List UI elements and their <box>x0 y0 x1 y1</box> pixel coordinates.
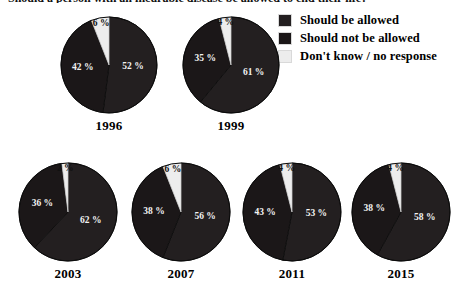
legend-item-dont-know: Don't know / no response <box>278 47 463 65</box>
pie-chart-1999: 61 %35 %4 %1999 <box>182 16 280 134</box>
pie-year-label-1996: 1996 <box>60 118 158 134</box>
pie-year-label-1999: 1999 <box>182 118 280 134</box>
pie-value-label-2015-0: 58 % <box>414 213 435 223</box>
pie-value-label-1999-1: 35 % <box>195 54 216 64</box>
pie-value-label-2003-2: 2 % <box>57 164 74 174</box>
pie-disc-2011: 53 %43 %4 % <box>242 162 342 262</box>
pie-year-label-2003: 2003 <box>18 266 118 282</box>
legend-swatch-not-allowed <box>278 32 292 45</box>
pie-value-label-1996-1: 42 % <box>72 64 93 74</box>
legend-label-allowed: Should be allowed <box>300 14 399 27</box>
pie-value-label-2007-1: 38 % <box>143 207 164 217</box>
pie-value-label-1996-0: 52 % <box>122 62 143 72</box>
pie-chart-2011: 53 %43 %4 %2011 <box>242 162 342 282</box>
pie-disc-2015: 58 %38 %4 % <box>351 162 451 262</box>
pie-disc-1996: 52 %42 %6 % <box>60 16 158 114</box>
pie-chart-1996: 52 %42 %6 %1996 <box>60 16 158 134</box>
pie-year-label-2015: 2015 <box>351 266 451 282</box>
legend-swatch-allowed <box>278 14 292 27</box>
pie-year-label-2011: 2011 <box>242 266 342 282</box>
pie-chart-2015: 58 %38 %4 %2015 <box>351 162 451 282</box>
legend-item-not-allowed: Should not be allowed <box>278 29 463 47</box>
pie-value-label-2015-1: 38 % <box>364 204 385 214</box>
pie-value-label-2007-2: 6 % <box>165 165 182 175</box>
pie-value-label-2003-1: 36 % <box>32 199 53 209</box>
pie-value-label-2003-0: 62 % <box>80 216 101 226</box>
pie-value-label-2011-0: 53 % <box>306 210 327 220</box>
legend-label-dont-know: Don't know / no response <box>300 50 437 63</box>
pie-value-label-2011-1: 43 % <box>254 208 275 218</box>
pie-chart-2007: 56 %38 %6 %2007 <box>131 162 231 282</box>
pie-value-label-1999-2: 4 % <box>217 18 234 28</box>
pie-value-label-1999-0: 61 % <box>243 68 264 78</box>
page-title: Should a person with an incurable diseas… <box>8 0 455 3</box>
pie-disc-2003: 62 %36 %2 % <box>18 162 118 262</box>
pie-year-label-2007: 2007 <box>131 266 231 282</box>
legend-swatch-dont-know <box>278 50 292 63</box>
legend: Should be allowed Should not be allowed … <box>278 11 463 65</box>
pie-chart-2003: 62 %36 %2 %2003 <box>18 162 118 282</box>
pie-value-label-2007-0: 56 % <box>194 212 215 222</box>
legend-label-not-allowed: Should not be allowed <box>300 32 420 45</box>
pie-value-label-2011-2: 4 % <box>278 164 295 174</box>
legend-item-allowed: Should be allowed <box>278 11 463 29</box>
pie-disc-1999: 61 %35 %4 % <box>182 16 280 114</box>
pie-value-label-1996-2: 6 % <box>93 19 110 29</box>
pie-disc-2007: 56 %38 %6 % <box>131 162 231 262</box>
pie-value-label-2015-2: 4 % <box>387 164 404 174</box>
